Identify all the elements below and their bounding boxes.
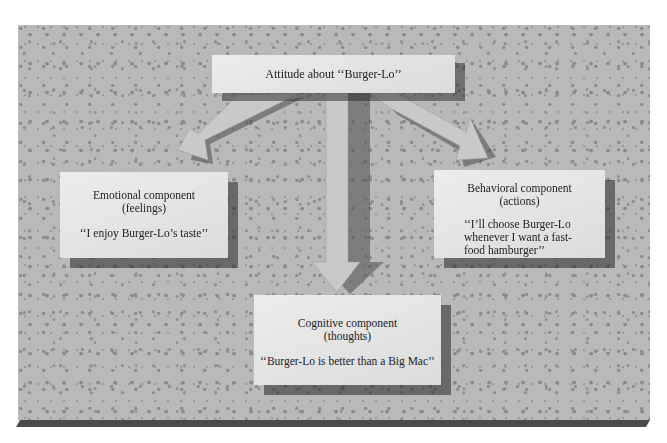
cognitive-quote: ‘‘Burger-Lo is better than a Big Mac’’ xyxy=(254,355,441,368)
behavioral-quote-line-2: whenever I want a fast- xyxy=(464,231,605,244)
behavioral-quote-line-1: ‘‘I’ll choose Burger-Lo xyxy=(464,218,605,231)
behavioral-quote-line-3: food hamburger’’ xyxy=(464,244,605,257)
attitude-box: Attitude about ‘‘Burger-Lo’’ xyxy=(212,55,455,93)
cognitive-subtitle: (thoughts) xyxy=(254,330,441,343)
behavioral-title: Behavioral component xyxy=(434,182,605,195)
behavioral-component-box: Behavioral component (actions) ‘‘I’ll ch… xyxy=(434,170,605,258)
attitude-label: Attitude about ‘‘Burger-Lo’’ xyxy=(212,55,455,93)
behavioral-quote: ‘‘I’ll choose Burger-Lo whenever I want … xyxy=(434,218,605,257)
emotional-title: Emotional component xyxy=(60,189,228,202)
behavioral-subtitle: (actions) xyxy=(434,195,605,208)
emotional-quote: ‘‘I enjoy Burger-Lo’s taste’’ xyxy=(60,227,228,240)
emotional-subtitle: (feelings) xyxy=(60,202,228,215)
emotional-component-box: Emotional component (feelings) ‘‘I enjoy… xyxy=(60,172,228,258)
arrow-to-behavioral xyxy=(370,93,488,160)
cognitive-title: Cognitive component xyxy=(254,317,441,330)
cognitive-component-box: Cognitive component (thoughts) ‘‘Burger-… xyxy=(254,295,441,385)
